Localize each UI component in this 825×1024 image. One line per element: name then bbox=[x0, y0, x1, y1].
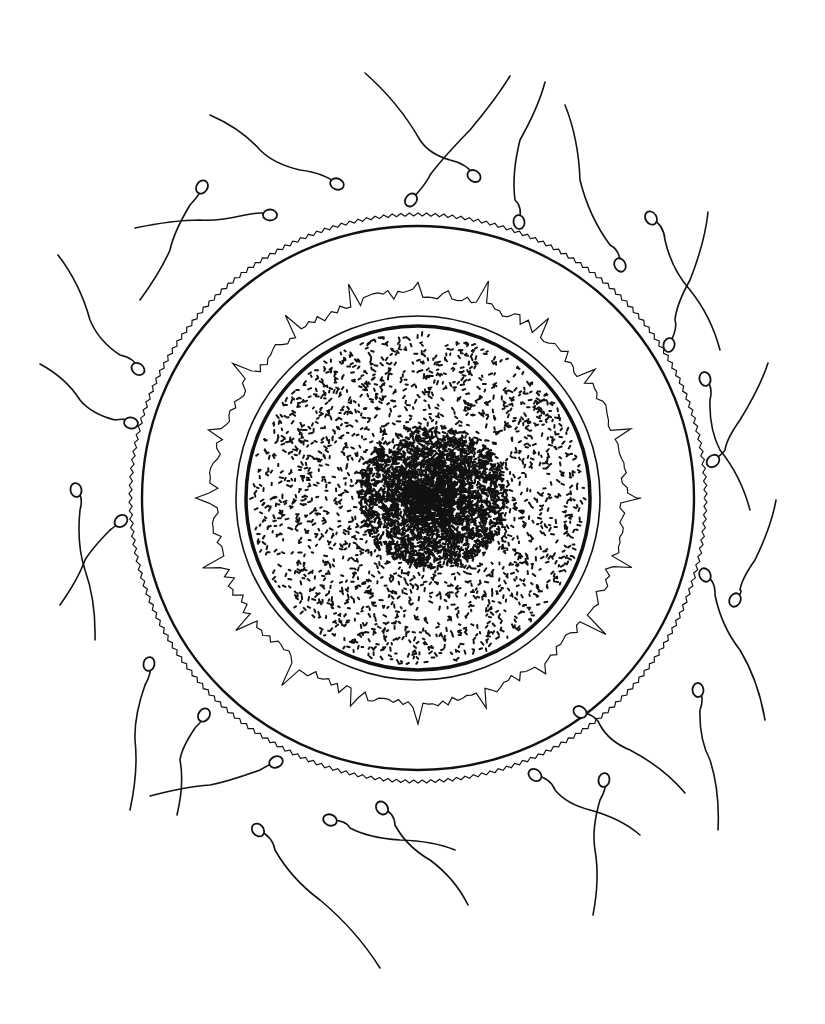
sperm-head bbox=[263, 210, 277, 221]
egg-and-sperm-illustration bbox=[0, 0, 825, 1024]
sperm-head bbox=[692, 682, 704, 697]
